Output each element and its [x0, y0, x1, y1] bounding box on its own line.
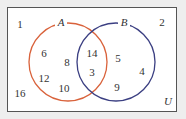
set-b-label: B — [121, 17, 128, 28]
universe-label: U — [164, 96, 172, 107]
region-value: 9 — [114, 82, 120, 93]
region-value: 5 — [115, 53, 121, 64]
region-value: 4 — [139, 66, 145, 77]
region-value: 14 — [87, 48, 98, 59]
region-value: 8 — [64, 57, 70, 68]
venn-circles — [0, 0, 186, 119]
region-value: 1 — [17, 19, 23, 30]
region-value: 16 — [15, 88, 26, 99]
region-value: 2 — [159, 17, 165, 28]
region-value: 3 — [89, 67, 95, 78]
region-value: 10 — [59, 83, 70, 94]
region-value: 12 — [39, 73, 50, 84]
region-value: 6 — [41, 48, 47, 59]
set-a-label: A — [58, 17, 65, 28]
